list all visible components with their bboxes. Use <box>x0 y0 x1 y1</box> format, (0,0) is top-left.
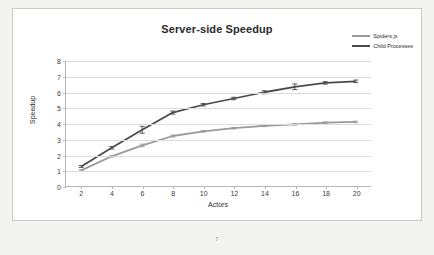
y-tick-mark <box>63 77 66 78</box>
y-tick-label: 3 <box>57 136 61 143</box>
x-tick-mark <box>296 186 297 189</box>
gridline <box>66 124 371 125</box>
gridline <box>66 171 371 172</box>
x-tick-mark <box>112 186 113 189</box>
y-tick-label: 1 <box>57 168 61 175</box>
y-tick-label: 8 <box>57 58 61 65</box>
y-axis-label: Speedup <box>29 96 36 124</box>
x-tick-mark <box>173 186 174 189</box>
x-tick-label: 4 <box>110 190 114 197</box>
gridline <box>66 61 371 62</box>
legend-swatch-child-processes <box>352 45 370 47</box>
y-tick-mark <box>63 156 66 157</box>
x-tick-mark <box>326 186 327 189</box>
y-tick-mark <box>63 108 66 109</box>
x-tick-label: 20 <box>353 190 361 197</box>
legend-label-child-processes: Child Processes <box>373 43 413 49</box>
y-tick-label: 7 <box>57 73 61 80</box>
y-tick-mark <box>63 61 66 62</box>
x-tick-label: 18 <box>322 190 330 197</box>
x-tick-label: 6 <box>141 190 145 197</box>
y-tick-label: 2 <box>57 152 61 159</box>
x-tick-mark <box>81 186 82 189</box>
gridline <box>66 77 371 78</box>
gridline <box>66 140 371 141</box>
gridline <box>66 108 371 109</box>
legend-item-spiders[interactable]: Spiders.js <box>352 33 413 39</box>
x-tick-mark <box>357 186 358 189</box>
y-tick-label: 5 <box>57 105 61 112</box>
chart-legend: Spiders.js Child Processes <box>352 33 413 49</box>
x-tick-mark <box>265 186 266 189</box>
y-tick-label: 0 <box>57 184 61 191</box>
y-tick-mark <box>63 187 66 188</box>
x-tick-mark <box>204 186 205 189</box>
gridline <box>66 156 371 157</box>
legend-swatch-spiders <box>352 35 370 37</box>
gridline <box>66 93 371 94</box>
x-tick-label: 2 <box>79 190 83 197</box>
error-bar <box>79 166 84 168</box>
x-tick-label: 16 <box>292 190 300 197</box>
y-tick-label: 4 <box>57 121 61 128</box>
y-tick-mark <box>63 171 66 172</box>
x-tick-label: 10 <box>200 190 208 197</box>
legend-item-child-processes[interactable]: Child Processes <box>352 43 413 49</box>
legend-label-spiders: Spiders.js <box>373 33 397 39</box>
y-tick-mark <box>63 93 66 94</box>
y-tick-label: 6 <box>57 89 61 96</box>
x-tick-label: 8 <box>171 190 175 197</box>
page-footer: 7 <box>0 236 434 242</box>
plot-area: 0123456782468101214161820 <box>65 61 371 187</box>
y-tick-mark <box>63 140 66 141</box>
y-tick-mark <box>63 124 66 125</box>
page-canvas: Server-side Speedup Spiders.js Child Pro… <box>0 0 434 255</box>
series-0 <box>79 121 358 171</box>
x-tick-label: 14 <box>261 190 269 197</box>
x-tick-mark <box>143 186 144 189</box>
x-tick-label: 12 <box>230 190 238 197</box>
series-line <box>81 122 356 170</box>
x-axis-label: Actors <box>65 201 371 208</box>
x-tick-mark <box>234 186 235 189</box>
chart-container: Server-side Speedup Spiders.js Child Pro… <box>12 8 422 221</box>
